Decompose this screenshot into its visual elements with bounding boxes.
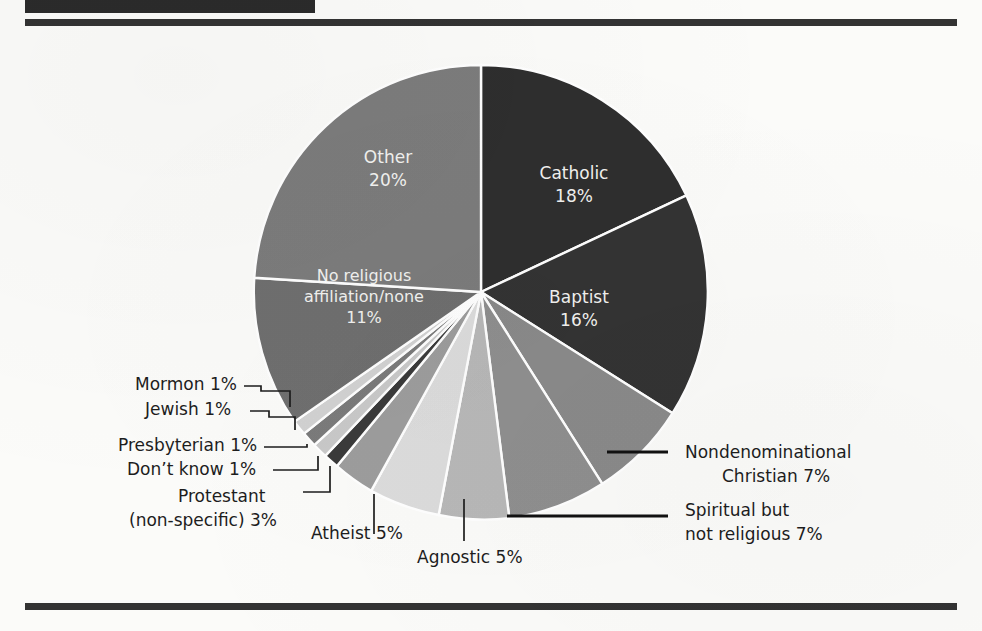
label-catholic-pct: 18% bbox=[555, 186, 593, 206]
slice-other[interactable] bbox=[254, 65, 481, 292]
label-nondenominational-line2: Christian 7% bbox=[722, 466, 830, 486]
callout-dont-know: Don’t know 1% bbox=[127, 456, 318, 479]
label-nondenominational-line1: Nondenominational bbox=[685, 442, 852, 462]
label-atheist: Atheist 5% bbox=[311, 523, 403, 543]
label-baptist-name: Baptist bbox=[549, 287, 609, 307]
label-jewish: Jewish 1% bbox=[144, 399, 231, 419]
label-presbyterian: Presbyterian 1% bbox=[118, 435, 257, 455]
callout-presbyterian: Presbyterian 1% bbox=[118, 435, 307, 455]
label-other-pct: 20% bbox=[369, 170, 407, 190]
pie-chart: Catholic 18% Baptist 16% Other 20% No re… bbox=[0, 0, 982, 631]
page-canvas: Catholic 18% Baptist 16% Other 20% No re… bbox=[0, 0, 982, 631]
callout-atheist: Atheist 5% bbox=[311, 494, 403, 543]
label-spiritual-line2: not religious 7% bbox=[685, 524, 823, 544]
leader-line-dont-know bbox=[273, 456, 318, 470]
label-protestant-line1: Protestant bbox=[178, 486, 266, 506]
label-other-name: Other bbox=[364, 147, 412, 167]
label-none-line1: No religious bbox=[317, 266, 412, 285]
label-dont-know: Don’t know 1% bbox=[127, 459, 256, 479]
callout-jewish: Jewish 1% bbox=[144, 399, 295, 430]
label-agnostic: Agnostic 5% bbox=[417, 547, 523, 567]
label-protestant-line2: (non-specific) 3% bbox=[129, 510, 277, 530]
label-none-line2: affiliation/none bbox=[304, 287, 424, 306]
leader-line-presbyterian bbox=[264, 444, 307, 447]
label-baptist-pct: 16% bbox=[560, 310, 598, 330]
label-mormon: Mormon 1% bbox=[135, 374, 237, 394]
label-catholic-name: Catholic bbox=[540, 163, 609, 183]
label-spiritual-line1: Spiritual but bbox=[685, 500, 790, 520]
label-none-pct: 11% bbox=[346, 308, 382, 327]
